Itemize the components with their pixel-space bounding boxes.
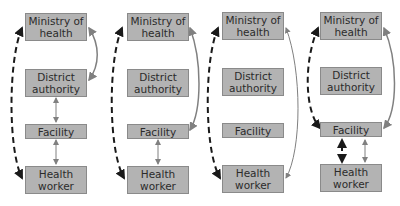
health-worker-box-1: Health worker [25,166,87,194]
district-authority-box-2: District authority [127,69,189,97]
box-label: Facility [333,124,369,136]
health-worker-box-3: Health worker [222,165,284,193]
box-label: District authority [128,71,188,95]
ministry-of-health-box-3: Ministry of health [222,12,284,40]
box-label: Ministry of health [26,15,86,39]
box-label: Facility [140,126,176,138]
box-label: Ministry of health [321,14,381,38]
ministry-of-health-box-2: Ministry of health [127,13,189,41]
box-label: Health worker [26,168,86,192]
box-label: Ministry of health [223,14,283,38]
district-authority-box-4: District authority [320,67,382,95]
facility-box-4: Facility [320,122,382,137]
facility-box-2: Facility [127,124,189,139]
health-worker-box-2: Health worker [127,166,189,194]
box-label: Facility [38,126,74,138]
box-label: District authority [321,69,381,93]
facility-box-3: Facility [222,123,284,138]
health-worker-box-4: Health worker [320,164,382,192]
ministry-of-health-box-1: Ministry of health [25,13,87,41]
box-label: Ministry of health [128,15,188,39]
box-label: Health worker [223,167,283,191]
box-label: District authority [223,70,283,94]
district-authority-box-3: District authority [222,68,284,96]
box-label: District authority [26,71,86,95]
box-label: Health worker [128,168,188,192]
facility-box-1: Facility [25,124,87,139]
ministry-of-health-box-4: Ministry of health [320,12,382,40]
box-label: Health worker [321,166,381,190]
district-authority-box-1: District authority [25,69,87,97]
box-label: Facility [235,125,271,137]
